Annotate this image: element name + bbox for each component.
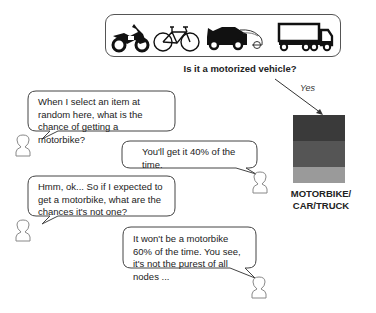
speech-bubble-3-text: Hmm, ok... So if I expected to get a mot…: [30, 177, 174, 223]
speech-bubble-4-text: It won't be a motorbike 60% of the time.…: [125, 229, 256, 287]
band-motorbike: [293, 115, 345, 141]
car-icon: [207, 27, 262, 49]
person-icon: [16, 220, 30, 241]
person-icon: [16, 135, 30, 156]
node-label: MOTORBIKE/ CAR/TRUCK: [285, 188, 357, 212]
band-truck: [293, 167, 345, 183]
node-label-line2: CAR/TRUCK: [285, 200, 357, 212]
truck-icon: [279, 24, 332, 50]
node-label-line1: MOTORBIKE/: [285, 188, 357, 200]
motorbike-icon: [113, 24, 148, 51]
split-question: Is it a motorized vehicle?: [140, 63, 340, 74]
yes-branch-arrow: [275, 79, 323, 115]
bicycle-icon: [154, 27, 199, 51]
speech-bubble-2-text: You'll get it 40% of the time.: [124, 142, 256, 175]
node-class-distribution-bar: [293, 115, 345, 183]
person-icon: [253, 172, 267, 193]
branch-label-yes: Yes: [300, 83, 315, 93]
band-car: [293, 141, 345, 167]
